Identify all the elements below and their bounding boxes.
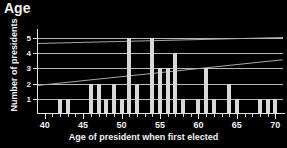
bar-age-70: [273, 99, 277, 114]
x-tick-57: [175, 114, 176, 117]
x-tick-55: [160, 114, 161, 119]
bar-age-62: [212, 99, 216, 114]
x-tick-label-55: 55: [155, 120, 165, 130]
bar-series: [37, 29, 283, 114]
x-tick-label-60: 60: [193, 120, 203, 130]
bar-age-64: [227, 84, 231, 114]
x-tick-56: [168, 114, 169, 117]
x-tick-42: [60, 114, 61, 117]
x-tick-64: [229, 114, 230, 117]
x-tick-label-50: 50: [117, 120, 127, 130]
bar-age-50: [120, 99, 124, 114]
bar-age-48: [104, 99, 108, 114]
bar-age-47: [97, 84, 101, 114]
x-tick-62: [214, 114, 215, 117]
bar-age-54: [150, 38, 154, 114]
page-title: Age: [4, 0, 30, 16]
y-tick-2: [33, 84, 37, 85]
x-tick-53: [145, 114, 146, 117]
y-tick-label-1: 1: [22, 94, 31, 103]
bar-age-42: [58, 99, 62, 114]
x-tick-label-45: 45: [78, 120, 88, 130]
x-tick-41: [52, 114, 53, 117]
x-tick-61: [206, 114, 207, 117]
bar-age-69: [266, 99, 270, 114]
x-tick-58: [183, 114, 184, 117]
x-tick-46: [91, 114, 92, 117]
y-tick-label-5: 5: [22, 34, 31, 43]
x-tick-50: [122, 114, 123, 119]
x-tick-43: [68, 114, 69, 117]
x-tick-70: [275, 114, 276, 119]
bar-age-55: [158, 68, 162, 114]
x-tick-69: [268, 114, 269, 117]
x-tick-47: [99, 114, 100, 117]
x-tick-66: [245, 114, 246, 117]
y-tick-1: [33, 99, 37, 100]
bar-age-68: [258, 99, 262, 114]
bar-age-51: [127, 38, 131, 114]
bar-age-58: [181, 99, 185, 114]
x-tick-51: [129, 114, 130, 117]
x-tick-59: [191, 114, 192, 117]
y-tick-label-2: 2: [22, 79, 31, 88]
x-tick-label-70: 70: [270, 120, 280, 130]
x-tick-60: [198, 114, 199, 119]
bar-age-61: [204, 68, 208, 114]
x-tick-44: [75, 114, 76, 117]
x-tick-54: [152, 114, 153, 117]
bar-age-52: [135, 84, 139, 114]
x-axis-line: [37, 113, 285, 114]
x-tick-52: [137, 114, 138, 117]
bar-age-43: [66, 99, 70, 114]
plot-area: [37, 29, 283, 114]
bar-age-60: [196, 99, 200, 114]
x-tick-68: [260, 114, 261, 117]
bar-age-49: [112, 84, 116, 114]
bar-age-46: [89, 84, 93, 114]
x-tick-63: [222, 114, 223, 117]
y-tick-label-3: 3: [22, 64, 31, 73]
x-tick-45: [83, 114, 84, 119]
x-tick-40: [45, 114, 46, 119]
x-tick-65: [237, 114, 238, 119]
x-tick-49: [114, 114, 115, 117]
y-axis-line: [37, 29, 38, 114]
y-tick-3: [33, 68, 37, 69]
x-tick-label-65: 65: [232, 120, 242, 130]
bar-age-65: [235, 99, 239, 114]
y-tick-label-4: 4: [22, 49, 31, 58]
y-tick-4: [33, 53, 37, 54]
x-axis-title: Age of president when first elected: [0, 132, 287, 142]
x-tick-67: [252, 114, 253, 117]
y-tick-5: [33, 38, 37, 39]
chart-screenshot: Age Number of presidents Age of presiden…: [0, 0, 287, 148]
x-tick-48: [106, 114, 107, 117]
x-tick-label-40: 40: [40, 120, 50, 130]
bar-age-56: [166, 68, 170, 114]
bar-age-57: [173, 53, 177, 114]
y-axis-title: Number of presidents: [9, 17, 19, 113]
